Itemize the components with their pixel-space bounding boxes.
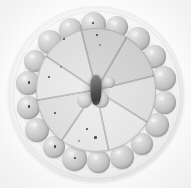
- inner-garnish-ball: [77, 93, 92, 108]
- photo-canvas: round plate of sliced fruit arranged rad…: [0, 0, 191, 188]
- fruit-seed: [74, 30, 76, 32]
- fruit-seed: [94, 136, 97, 139]
- fruit-seed: [78, 140, 80, 142]
- fruit-core: [91, 75, 102, 105]
- fruit-disc: [36, 28, 156, 152]
- inner-garnish-ball: [104, 77, 115, 88]
- fruit-seed: [99, 44, 101, 46]
- fruit-seed: [54, 112, 56, 114]
- fruit-seed: [96, 34, 98, 36]
- fruit-seed: [60, 66, 62, 68]
